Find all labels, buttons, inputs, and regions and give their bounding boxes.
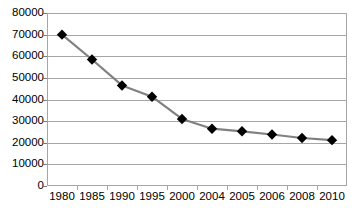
gridline <box>48 164 346 165</box>
gridline <box>48 143 346 144</box>
y-axis-tick-label: 20000 <box>0 137 44 148</box>
gridline <box>48 100 346 101</box>
gridline <box>48 13 346 14</box>
y-axis-tick-label: 30000 <box>0 115 44 126</box>
x-axis-tick-label: 2000 <box>165 190 199 202</box>
y-axis-tick-label: 50000 <box>0 72 44 83</box>
x-axis-tick-label: 2008 <box>285 190 319 202</box>
y-axis-tick-mark <box>43 100 47 101</box>
y-axis-tick-label: 0 <box>0 180 44 191</box>
gridline <box>48 35 346 36</box>
y-axis-tick-label: 80000 <box>0 7 44 18</box>
y-axis-tick-mark <box>43 56 47 57</box>
y-axis-tick-mark <box>43 78 47 79</box>
plot-area <box>47 13 347 186</box>
y-axis-tick-label: 10000 <box>0 158 44 169</box>
x-axis-tick-label: 2005 <box>225 190 259 202</box>
gridline <box>48 56 346 57</box>
gridline <box>48 121 346 122</box>
x-axis-tick-label: 2004 <box>195 190 229 202</box>
x-axis-tick-label: 1985 <box>75 190 109 202</box>
y-axis-tick-mark <box>43 186 47 187</box>
y-axis-tick-mark <box>43 121 47 122</box>
y-axis-tick-mark <box>43 143 47 144</box>
x-axis-tick-label: 1995 <box>135 190 169 202</box>
line-chart: 0100002000030000400005000060000700008000… <box>0 0 354 209</box>
x-axis-tick-label: 1980 <box>45 190 79 202</box>
gridline <box>48 78 346 79</box>
y-axis-tick-mark <box>43 164 47 165</box>
y-axis-tick-label: 60000 <box>0 50 44 61</box>
y-axis-tick-label: 40000 <box>0 94 44 105</box>
x-axis-tick-label: 2006 <box>255 190 289 202</box>
y-axis-tick-mark <box>43 13 47 14</box>
y-axis-tick-mark <box>43 35 47 36</box>
x-axis-tick-label: 1990 <box>105 190 139 202</box>
y-axis-tick-label: 70000 <box>0 29 44 40</box>
x-axis-tick-label: 2010 <box>315 190 349 202</box>
